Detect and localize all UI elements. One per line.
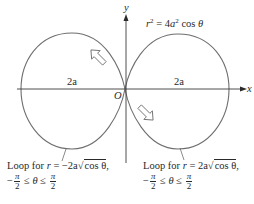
- right-width-label: 2a: [174, 77, 184, 88]
- x-axis-arrowhead-icon: [240, 87, 247, 92]
- curve-equation: r2 = 4a2 cos θ: [146, 17, 203, 29]
- right-theta-range: −π2 ≤ θ ≤ π2: [143, 172, 239, 191]
- y-axis-arrowhead-icon: [124, 14, 129, 21]
- right-caption-leader: [180, 148, 184, 160]
- x-axis-label: x: [247, 84, 252, 95]
- left-theta-range: −π2 ≤ θ ≤ π2: [7, 172, 109, 191]
- left-loop-curve: [21, 33, 125, 149]
- right-loop-curve: [125, 34, 229, 149]
- direction-arrow-down-right-icon: [135, 102, 157, 124]
- y-axis-label: y: [124, 3, 129, 14]
- left-loop-caption: Loop for r = −2a√cos θ, −π2 ≤ θ ≤ π2: [7, 160, 109, 191]
- left-width-label: 2a: [67, 77, 77, 88]
- right-loop-caption: Loop for r = 2a√cos θ, −π2 ≤ θ ≤ π2: [143, 160, 239, 191]
- origin-label: O: [114, 91, 122, 102]
